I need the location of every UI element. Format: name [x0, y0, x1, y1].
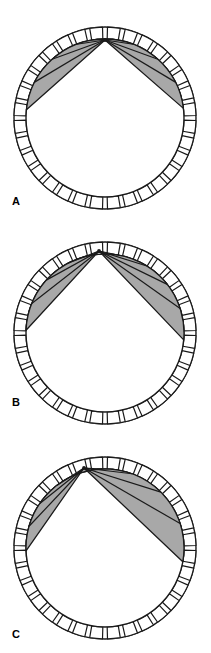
fan-apex-point — [97, 249, 101, 253]
ring-segment — [183, 550, 196, 563]
ring-segment — [107, 196, 120, 209]
panel-c-diagram — [0, 430, 211, 653]
panel-a-diagram — [0, 0, 211, 215]
panel-a-label: A — [12, 196, 20, 207]
ring-segment — [90, 411, 103, 424]
fan-apex-point — [103, 38, 107, 42]
ring-segment — [107, 457, 120, 470]
ring-segment — [183, 103, 196, 116]
ring-segment — [107, 411, 120, 424]
panel-c-label: C — [12, 629, 20, 640]
panel-a: A — [0, 0, 211, 215]
ring-segment — [90, 626, 103, 639]
panel-b: B — [0, 215, 211, 430]
ring-segment — [14, 550, 27, 563]
ring-segment — [107, 626, 120, 639]
ring-segment — [14, 318, 27, 331]
fan-apex-point — [82, 466, 86, 470]
ring-segment — [14, 533, 27, 546]
panel-c: C — [0, 430, 211, 653]
ring-segment — [14, 335, 27, 348]
ring-segment — [183, 533, 196, 546]
ring-segment — [183, 335, 196, 348]
ring-segment — [14, 120, 27, 133]
panel-b-label: B — [12, 397, 20, 408]
ring-segment — [90, 27, 103, 40]
ring-segment — [90, 196, 103, 209]
ring-segment — [183, 120, 196, 133]
panel-b-diagram — [0, 215, 211, 430]
ring-segment — [14, 103, 27, 116]
ring-segment — [107, 27, 120, 40]
figure-page: A B C — [0, 0, 211, 653]
ring-segment — [183, 318, 196, 331]
